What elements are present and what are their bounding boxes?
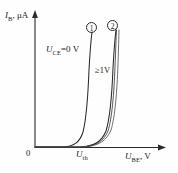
uce-high-annotation: ≥1V <box>95 66 110 75</box>
x-axis-subscript: BE <box>132 156 141 163</box>
x-axis-arrowhead <box>158 145 166 151</box>
uce-value: =0 V <box>61 44 79 54</box>
threshold-voltage-label: Uth <box>76 150 88 161</box>
y-axis-unit: , μA <box>12 10 28 20</box>
curve-tag-1: 1 <box>86 22 97 33</box>
y-axis-arrowhead <box>32 10 38 18</box>
figure-root: IB, μA UBE, V 0 Uth UCE=0 V ≥1V 1 2 <box>0 0 178 173</box>
curve-tag-2: 2 <box>107 20 118 31</box>
y-axis-label: IB, μA <box>5 11 28 22</box>
uce-subscript: CE <box>53 49 62 56</box>
x-axis-unit: , V <box>140 151 151 161</box>
uce-zero-annotation: UCE=0 V <box>46 45 79 56</box>
x-axis-label: UBE, V <box>125 152 151 163</box>
origin-label: 0 <box>26 149 30 158</box>
threshold-subscript: th <box>83 154 88 161</box>
